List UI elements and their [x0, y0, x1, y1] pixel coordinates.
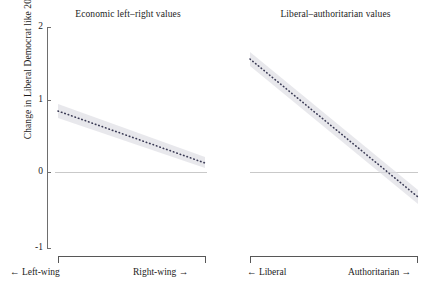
x-axis-bracket-panel2 [250, 256, 418, 263]
fit-line-panel2 [250, 59, 418, 197]
bracket-cap-left-panel1 [58, 256, 59, 263]
plot-area-panel2 [243, 0, 428, 287]
y-tick-label-0: 0 [13, 166, 43, 176]
bracket-cap-right-panel2 [417, 256, 418, 263]
plot-area-panel1 [48, 0, 208, 287]
x-label-left-wing: ← Left-wing [10, 267, 60, 277]
bracket-bar-panel1 [58, 256, 206, 257]
confidence-ribbon-panel1 [58, 104, 205, 168]
panel-liberal-authoritarian: Liberal–authoritarian values [243, 0, 428, 287]
chart-figure: Change in Liberal Democrat like 2015–17 … [0, 0, 438, 287]
x-label-right-wing: Right-wing → [133, 267, 188, 277]
y-tick-label-1: 1 [13, 94, 43, 104]
x-label-liberal: ← Liberal [247, 267, 286, 277]
bracket-cap-right-panel1 [205, 256, 206, 263]
panel-economic-left-right: Economic left–right values [48, 0, 208, 287]
y-tick-label-2: 2 [13, 21, 43, 31]
x-axis-bracket-panel1 [58, 256, 206, 263]
bracket-cap-left-panel2 [250, 256, 251, 263]
x-label-authoritarian: Authoritarian → [348, 267, 411, 277]
bracket-bar-panel2 [250, 256, 418, 257]
y-tick-label-neg1: -1 [13, 242, 43, 252]
